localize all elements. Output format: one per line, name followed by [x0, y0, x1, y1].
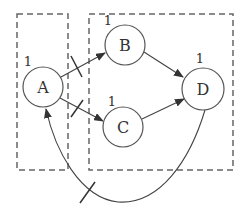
node-b-label: B — [119, 36, 131, 55]
node-a-weight: 1 — [24, 54, 32, 69]
node-b: B 1 — [104, 13, 145, 65]
node-c: C 1 — [103, 94, 143, 147]
graph-diagram: A 1 B 1 C 1 D 1 — [0, 0, 244, 214]
edge-b-d — [144, 52, 183, 77]
cut-mark-a-c — [71, 100, 83, 117]
node-d-label: D — [197, 80, 210, 99]
node-c-label: C — [117, 118, 129, 137]
node-a: A 1 — [23, 54, 63, 107]
node-d-weight: 1 — [196, 51, 204, 66]
node-a-label: A — [36, 78, 49, 97]
edge-a-c — [60, 98, 103, 121]
node-b-weight: 1 — [104, 13, 112, 28]
edge-c-d — [142, 99, 184, 119]
node-c-weight: 1 — [108, 94, 116, 109]
node-d: D 1 — [182, 51, 224, 110]
